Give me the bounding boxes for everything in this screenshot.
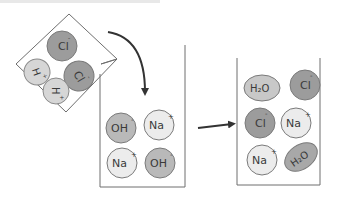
ion-oh-1: OH - xyxy=(106,113,136,143)
ion-na-4: Na + xyxy=(247,145,277,175)
ion-cl-3: Cl - xyxy=(290,70,320,100)
ion-charge: + xyxy=(168,113,174,121)
neutralization-diagram: Cl - Cl - H + H + OH - Na + xyxy=(0,0,343,201)
ion-label: OH xyxy=(111,122,128,135)
ion-label: Na xyxy=(149,119,164,132)
ion-charge: + xyxy=(131,151,137,159)
ion-cl-4: Cl - xyxy=(245,108,275,138)
molecule-h2o-2: H₂O xyxy=(279,137,322,177)
tilted-beaker: Cl - Cl - H + H + xyxy=(16,14,117,112)
ion-label: Na xyxy=(286,117,301,130)
ion-charge: - xyxy=(68,34,70,41)
ion-label: Na xyxy=(112,157,127,170)
ion-label: Na xyxy=(252,154,267,167)
ion-label: H₂O xyxy=(250,83,270,94)
ion-label: Cl xyxy=(255,117,266,130)
molecule-h2o-1: H₂O xyxy=(244,75,280,101)
ion-label: Cl xyxy=(58,40,69,53)
ion-label: H xyxy=(50,87,61,95)
ion-charge: + xyxy=(59,95,66,100)
ion-charge: + xyxy=(305,111,311,119)
ion-label: Cl xyxy=(300,79,311,92)
ion-cl-1: Cl - xyxy=(47,31,77,61)
right-beaker: H₂O Cl - Cl - Na + Na + H₂O xyxy=(237,58,323,185)
ion-charge: + xyxy=(271,148,277,156)
ion-na-1: Na + xyxy=(144,110,174,140)
reaction-arrow xyxy=(198,124,232,128)
ion-na-2: Na + xyxy=(107,148,137,178)
ion-na-3: Na + xyxy=(281,108,311,138)
ion-h-2: H + xyxy=(43,78,69,104)
ion-oh-2: OH - xyxy=(145,148,175,178)
top-text-fragment xyxy=(0,0,160,3)
ion-label: OH xyxy=(150,157,167,170)
